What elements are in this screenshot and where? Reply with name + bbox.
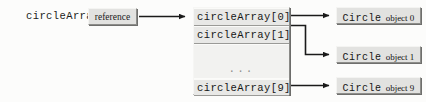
circle-object-box-0: Circle object 0 [336,7,421,24]
circle-object-box-1: Circle object 1 [336,46,421,63]
circle-object-suffix-1: object 1 [386,52,415,62]
array-cell-ellipsis: ... [194,44,289,79]
variable-label: circleArray [26,8,88,25]
arrow-cell1-to-object1 [291,26,329,55]
array-reference-diagram: circleArray reference circleArray[0] cir… [0,0,426,102]
reference-box: reference [88,8,137,25]
array-cell-1: circleArray[1] [194,26,289,44]
circle-object-suffix-9: object 9 [386,83,415,93]
array-container: circleArray[0] circleArray[1] ... circle… [193,7,290,95]
circle-object-suffix-0: object 0 [386,13,415,23]
circle-object-box-9: Circle object 9 [336,77,421,94]
circle-object-class-0: Circle [343,13,382,24]
circle-object-class-9: Circle [343,83,382,94]
array-cell-0: circleArray[0] [194,8,289,26]
circle-object-class-1: Circle [343,52,382,63]
array-cell-9: circleArray[9] [194,79,289,96]
